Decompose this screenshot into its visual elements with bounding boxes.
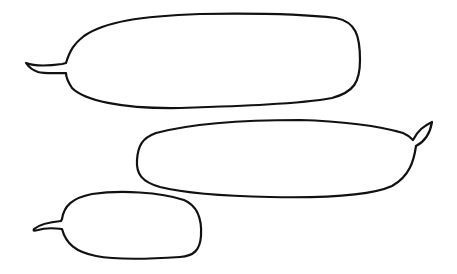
speech-bubble-bottom	[34, 192, 202, 259]
speech-bubble-top	[26, 14, 360, 108]
speech-bubble-middle-outline	[137, 120, 432, 197]
speech-bubble-middle	[137, 120, 432, 197]
speech-bubbles-drawing	[0, 0, 457, 274]
speech-bubble-top-outline	[26, 14, 360, 108]
speech-bubble-bottom-outline	[34, 192, 202, 259]
